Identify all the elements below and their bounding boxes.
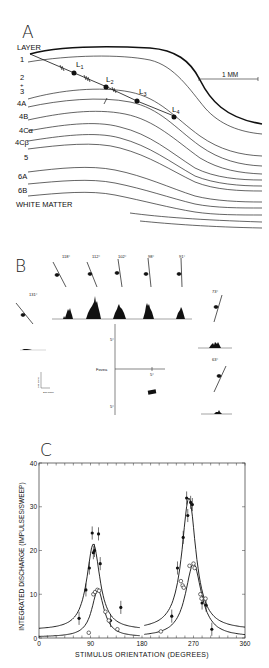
data-point-filled (186, 514, 189, 517)
data-point-open (182, 586, 186, 590)
visual-field-axes: Fovea 5° 5° 5° (96, 324, 165, 415)
data-point-filled (191, 503, 194, 506)
data-point-open (192, 562, 196, 566)
svg-text:5°: 5° (150, 372, 154, 377)
svg-text:4Cβ: 4Cβ (15, 138, 30, 147)
data-point-open (107, 619, 111, 623)
svg-text:102°: 102° (118, 254, 127, 259)
data-point-filled (93, 549, 96, 552)
data-point-filled (119, 606, 122, 609)
svg-text:200 msec: 200 msec (43, 391, 55, 394)
tuning-curve (144, 564, 245, 635)
layer-header: LAYER (17, 43, 42, 52)
panel-c-letter: C (40, 440, 52, 460)
data-point-open (116, 627, 120, 631)
svg-text:2: 2 (20, 73, 24, 82)
calibration-bars: 100 imp/s 200 msec (37, 372, 55, 394)
y-tick-label: 0 (33, 635, 37, 642)
pial-surface (30, 47, 262, 124)
panel-b-letter: B (15, 256, 26, 276)
x-tick-label: 0 (37, 640, 41, 647)
x-tick-label: 360 (240, 640, 251, 647)
svg-text:4A: 4A (17, 99, 26, 108)
lesion-l3-label: L3 (139, 87, 147, 97)
plot-frame (39, 463, 245, 638)
svg-text:118°: 118° (62, 254, 70, 259)
panel-a-letter: A (22, 22, 34, 42)
data-point-open (159, 630, 163, 634)
svg-text:4B: 4B (19, 112, 28, 121)
y-axis-label: INTEGRATED DISCHARGE (IMPULSES/SWEEP) (18, 482, 26, 630)
lesion-l3-marker (135, 99, 140, 104)
data-point-open (199, 592, 203, 596)
lesion-l2-label: L2 (106, 75, 114, 85)
fovea-label: Fovea (96, 367, 108, 372)
x-axis-label: STIMULUS ORIENTATION (DEGREES) (75, 651, 209, 659)
data-point-open (188, 564, 192, 568)
scale-bar-1mm: 1 MM (199, 71, 258, 81)
svg-text:4Cα: 4Cα (19, 126, 34, 135)
svg-text:112°: 112° (92, 254, 100, 259)
lesion-l4-marker (172, 115, 177, 120)
data-point-open (104, 610, 108, 614)
data-point-filled (200, 601, 203, 604)
data-point-filled (97, 532, 100, 535)
data-point-filled (176, 566, 179, 569)
data-point-open (200, 597, 204, 601)
svg-text:1 MM: 1 MM (222, 71, 238, 78)
data-point-open (87, 631, 91, 635)
lesion-l4-label: L4 (172, 105, 180, 115)
y-tick-label: 30 (30, 503, 38, 510)
y-tick-label: 10 (30, 591, 38, 598)
data-point-filled (204, 604, 207, 607)
data-point-filled (77, 617, 80, 620)
svg-text:5: 5 (24, 153, 28, 162)
receptive-field (148, 389, 157, 394)
svg-text:6B: 6B (18, 186, 27, 195)
svg-text:63°: 63° (212, 357, 218, 362)
data-point-filled (210, 628, 213, 631)
svg-text:98°: 98° (148, 254, 154, 259)
x-tick-label: 270 (188, 640, 199, 647)
layer-labels: 1 2 + 3 4A 4B 4Cα 4Cβ 5 6A 6B WHITE MATT… (15, 55, 73, 209)
data-point-filled (182, 536, 185, 539)
lesion-l1-marker (72, 71, 77, 76)
svg-text:5°: 5° (110, 337, 114, 342)
panel-b: B 118° 112° 102° 98° 91° 73° 63° 131° (15, 254, 232, 415)
svg-text:131°: 131° (29, 292, 38, 297)
panel-c: C 090180270360010203040STIMULUS ORIENTAT… (18, 440, 251, 659)
data-point-filled (99, 562, 102, 565)
svg-text:1: 1 (20, 55, 24, 64)
svg-text:3: 3 (20, 87, 24, 96)
response-histograms (20, 296, 232, 414)
data-point-filled (170, 615, 173, 618)
svg-text:73°: 73° (212, 289, 218, 294)
y-tick-label: 40 (30, 460, 38, 467)
data-point-open (193, 566, 197, 570)
tuning-curve (39, 590, 140, 636)
data-point-filled (91, 531, 94, 534)
y-tick-label: 20 (30, 547, 38, 554)
stimulus-bars (16, 258, 226, 392)
data-point-open (179, 579, 183, 583)
data-point-filled (185, 496, 188, 499)
electrode-track: L1 L2 L3 L4 (30, 54, 180, 120)
data-point-open (204, 597, 208, 601)
lesion-l2-marker (104, 85, 109, 90)
svg-text:WHITE MATTER: WHITE MATTER (16, 200, 73, 209)
svg-text:5°: 5° (110, 404, 114, 409)
svg-text:91°: 91° (179, 254, 185, 259)
x-tick-label: 90 (87, 640, 95, 647)
panel-a: A LAYER 1 2 + 3 4A 4B 4Cα 4Cβ (15, 22, 262, 228)
svg-text:6A: 6A (18, 172, 27, 181)
lesion-l1-label: L1 (76, 60, 84, 70)
x-tick-label: 180 (137, 640, 148, 647)
data-point-open (97, 589, 101, 593)
orientation-tuning-chart: 090180270360010203040STIMULUS ORIENTATIO… (18, 460, 251, 660)
figure-canvas: A LAYER 1 2 + 3 4A 4B 4Cα 4Cβ (0, 0, 269, 668)
data-point-filled (84, 588, 87, 591)
data-point-filled (88, 566, 91, 569)
svg-text:100 imp/s: 100 imp/s (37, 376, 40, 388)
